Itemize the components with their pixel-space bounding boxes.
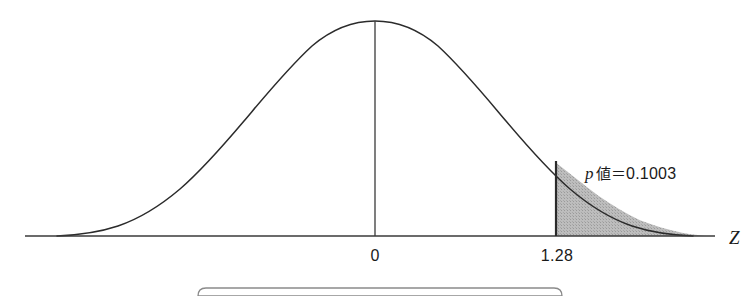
tick-label-critical-value: 1.28 bbox=[541, 248, 573, 264]
axis-variable-label: Z bbox=[729, 228, 740, 247]
p-value-annotation: p値＝0.1003 bbox=[585, 165, 676, 182]
normal-distribution-figure: 0 1.28 Z p値＝0.1003 bbox=[0, 0, 756, 296]
p-value-number: 0.1003 bbox=[626, 165, 676, 182]
annotation-equals: ＝ bbox=[611, 165, 626, 183]
p-symbol: p bbox=[585, 164, 596, 183]
annotation-word: 値 bbox=[596, 165, 611, 183]
tick-label-zero: 0 bbox=[370, 248, 379, 264]
caption-box bbox=[198, 288, 562, 296]
